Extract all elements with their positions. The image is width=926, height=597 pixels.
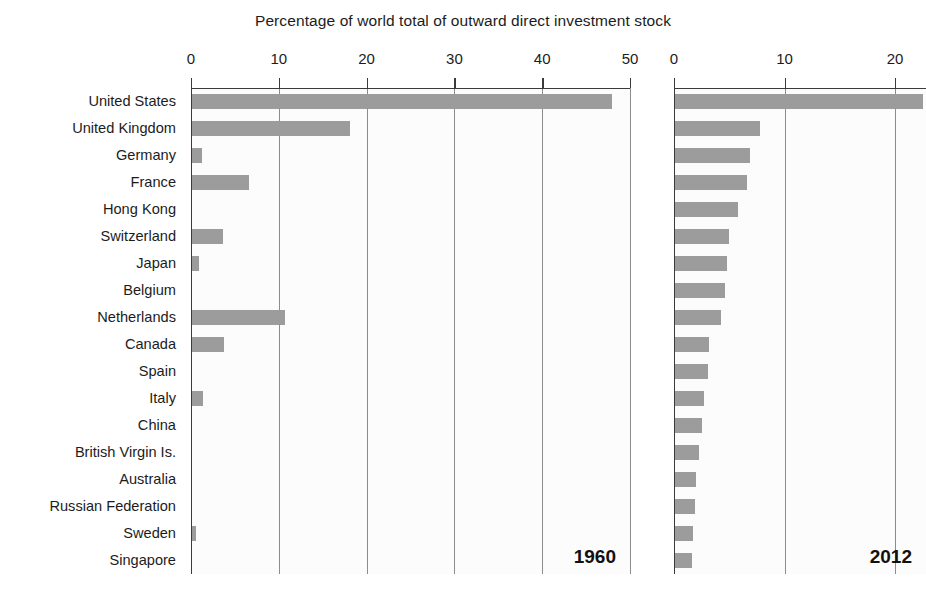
category-label: Sweden [123,526,176,541]
chart-title: Percentage of world total of outward dir… [0,12,926,30]
x-axis-tick [630,78,631,88]
gridline [895,88,896,574]
x-axis-tick [191,78,192,88]
x-axis-tick-label: 20 [358,50,375,67]
category-label: Netherlands [97,310,176,325]
x-axis-tick-label: 0 [187,50,195,67]
bar [675,445,699,460]
x-axis-tick-label: 20 [887,50,904,67]
bar [675,499,695,514]
bar [192,148,202,163]
gridline [454,88,455,574]
category-label: Russian Federation [49,499,176,514]
bar [192,121,350,136]
category-label: Switzerland [101,229,176,244]
year-annotation-2012: 2012 [870,546,912,568]
bar [192,94,612,109]
bar [675,283,725,298]
x-axis-tick [279,78,280,88]
panel-2012-left-spine [674,88,675,574]
gridline [785,88,786,574]
category-label: United Kingdom [72,121,176,136]
bar [675,310,721,325]
category-label: Germany [116,148,176,163]
bar [675,256,727,271]
x-axis-tick-label: 50 [622,50,639,67]
category-label: Canada [125,337,176,352]
bar [192,175,249,190]
gridline [630,88,631,574]
bar [675,526,693,541]
category-label: Spain [139,364,176,379]
category-label: Japan [136,256,176,271]
bar [675,418,702,433]
gridline [542,88,543,574]
category-label: Belgium [123,283,176,298]
bar [192,310,285,325]
gridline [367,88,368,574]
x-axis-tick-label: 30 [446,50,463,67]
x-axis-tick [542,78,543,88]
panel-2012-plot-area [674,88,926,574]
bar [192,391,203,406]
bar [675,202,738,217]
bar [675,472,696,487]
bar [675,229,729,244]
category-axis: United StatesUnited KingdomGermanyFrance… [0,88,184,574]
x-axis-tick [785,78,786,88]
panel-1960-plot-area [191,88,630,574]
gridline [279,88,280,574]
category-label: Australia [119,472,176,487]
bar [192,526,196,541]
panel-2012-top-spine [674,88,926,89]
x-axis-tick-label: 10 [776,50,793,67]
bar [675,364,708,379]
panel-1960: 1960 [191,88,630,574]
category-label: Hong Kong [103,202,176,217]
x-axis-tick [895,78,896,88]
bar [675,148,750,163]
bar [675,553,692,568]
year-annotation-1960: 1960 [574,546,616,568]
category-label: United States [88,94,176,109]
category-label: France [131,175,176,190]
panel-1960-left-spine [191,88,192,574]
bar [675,175,747,190]
bar [675,94,923,109]
category-label: China [138,418,176,433]
panel-2012: 2012 [674,88,926,574]
category-label: British Virgin Is. [75,445,176,460]
x-axis-tick-label: 10 [270,50,287,67]
x-axis-tick [674,78,675,88]
bar [675,121,760,136]
bar [192,337,224,352]
category-label: Italy [149,391,176,406]
bar [675,391,704,406]
category-label: Singapore [109,553,176,568]
bar [192,256,199,271]
x-axis-tick [454,78,455,88]
x-axis-tick-label: 40 [534,50,551,67]
bar [675,337,709,352]
panel-1960-top-spine [191,88,630,89]
bar [192,229,223,244]
chart-figure: Percentage of world total of outward dir… [0,0,926,597]
x-axis-tick [367,78,368,88]
x-axis-tick-label: 0 [670,50,678,67]
